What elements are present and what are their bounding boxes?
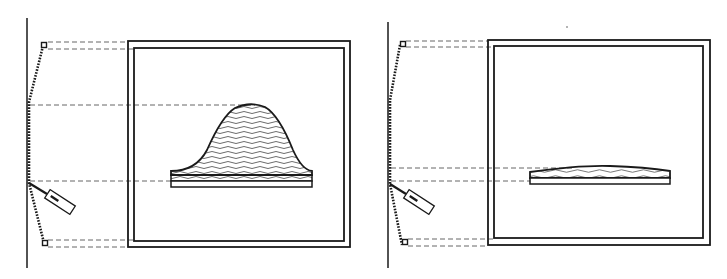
outer-frame bbox=[488, 40, 710, 245]
top-marker-square bbox=[401, 42, 406, 47]
bottom-marker-square bbox=[43, 241, 48, 246]
bottom-marker-square bbox=[403, 240, 408, 245]
dotted-beam-path bbox=[29, 46, 44, 243]
top-marker-square bbox=[42, 43, 47, 48]
left-panel bbox=[27, 18, 350, 268]
base-plate bbox=[171, 175, 312, 181]
bell-dome-object bbox=[171, 104, 312, 175]
sensor-icon bbox=[390, 184, 434, 214]
dashed-projection-lines bbox=[391, 41, 575, 246]
dotted-beam-path bbox=[390, 45, 402, 245]
right-panel bbox=[388, 22, 710, 268]
scan-speck bbox=[566, 26, 568, 28]
base-plate-lower bbox=[530, 178, 670, 184]
inner-frame bbox=[494, 46, 703, 238]
diagram-canvas bbox=[0, 0, 727, 279]
base-plate-lower bbox=[171, 181, 312, 187]
